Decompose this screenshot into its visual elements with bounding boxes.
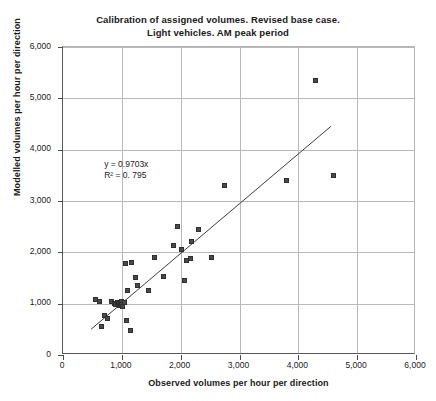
x-tick-label: 6,000 (390, 361, 436, 370)
data-point (146, 288, 151, 293)
data-point (161, 274, 166, 279)
y-axis-tick (58, 98, 63, 99)
y-tick-label: 3,000 (0, 196, 51, 205)
data-point (179, 247, 184, 252)
y-tick-label: 1,000 (0, 298, 51, 307)
x-tick-label: 1,000 (96, 361, 146, 370)
x-axis-label: Observed volumes per hour per direction (62, 378, 415, 388)
y-axis-tick (58, 252, 63, 253)
data-point (222, 183, 227, 188)
data-point (182, 278, 187, 283)
data-point (152, 255, 157, 260)
data-point (175, 224, 180, 229)
data-point (313, 78, 318, 83)
data-point (105, 316, 110, 321)
equation-label: y = 0.9703x (104, 159, 148, 170)
title-line-2: Light vehicles. AM peak period (0, 26, 436, 39)
x-tick-label: 0 (37, 361, 87, 370)
x-tick-label: 4,000 (272, 361, 322, 370)
data-point (135, 283, 140, 288)
x-tick-label: 3,000 (214, 361, 264, 370)
regression-annotation: y = 0.9703x R² = 0. 795 (104, 159, 148, 181)
data-point (331, 173, 336, 178)
x-tick-label: 2,000 (155, 361, 205, 370)
y-axis-tick (58, 47, 63, 48)
data-point (128, 328, 133, 333)
y-tick-label: 4,000 (0, 144, 51, 153)
data-point (129, 260, 134, 265)
data-point (122, 300, 127, 305)
data-point (284, 178, 289, 183)
plot-area: y = 0.9703x R² = 0. 795 (62, 46, 415, 354)
y-axis-tick (58, 201, 63, 202)
y-axis-tick (58, 304, 63, 305)
data-point (97, 299, 102, 304)
title-line-1: Calibration of assigned volumes. Revised… (0, 13, 436, 26)
data-point (188, 256, 193, 261)
y-tick-label: 5,000 (0, 93, 51, 102)
data-point (99, 324, 104, 329)
page-title: Calibration of assigned volumes. Revised… (0, 13, 436, 39)
data-point (196, 227, 201, 232)
data-point (123, 261, 128, 266)
data-point (124, 318, 129, 323)
y-tick-label: 6,000 (0, 42, 51, 51)
data-point (125, 288, 130, 293)
y-tick-label: 0 (0, 350, 51, 359)
scatter-chart: Calibration of assigned volumes. Revised… (0, 0, 436, 401)
r-squared-label: R² = 0. 795 (104, 170, 148, 181)
data-point (209, 255, 214, 260)
y-tick-label: 2,000 (0, 247, 51, 256)
y-axis-tick (58, 150, 63, 151)
data-point (171, 243, 176, 248)
data-point (189, 239, 194, 244)
x-tick-label: 5,000 (331, 361, 381, 370)
data-point (133, 275, 138, 280)
data-points-layer (63, 47, 414, 353)
